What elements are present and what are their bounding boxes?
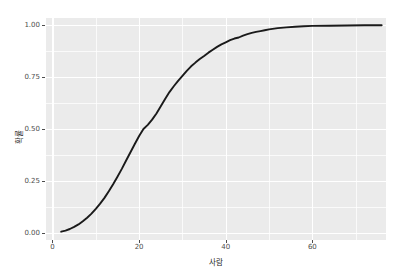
plot-panel	[46, 18, 386, 240]
y-tick-label: 0.00	[12, 229, 40, 237]
y-tick-mark	[42, 181, 45, 182]
y-tick-label: 0.25	[12, 177, 40, 185]
ecdf-chart: 확률 사람 0.000.250.500.751.00 0204060	[0, 0, 401, 274]
x-tick-mark	[52, 240, 53, 243]
y-tick-label: 0.75	[12, 73, 40, 81]
y-tick-mark	[42, 129, 45, 130]
y-tick-mark	[42, 233, 45, 234]
ecdf-curve	[46, 18, 386, 240]
x-tick-label: 0	[40, 243, 64, 252]
ecdf-curve-path	[61, 25, 382, 231]
y-axis-tick-labels: 0.000.250.500.751.00	[10, 0, 40, 274]
x-tick-label: 40	[214, 243, 238, 252]
x-tick-mark	[312, 240, 313, 243]
y-tick-label: 1.00	[12, 21, 40, 29]
x-axis-tick-labels: 0204060	[0, 241, 401, 255]
y-tick-mark	[42, 25, 45, 26]
x-tick-mark	[139, 240, 140, 243]
x-tick-label: 60	[300, 243, 324, 252]
y-tick-label: 0.50	[12, 125, 40, 133]
x-tick-label: 20	[127, 243, 151, 252]
x-tick-mark	[226, 240, 227, 243]
x-axis-title: 사람	[46, 258, 386, 268]
y-tick-mark	[42, 77, 45, 78]
